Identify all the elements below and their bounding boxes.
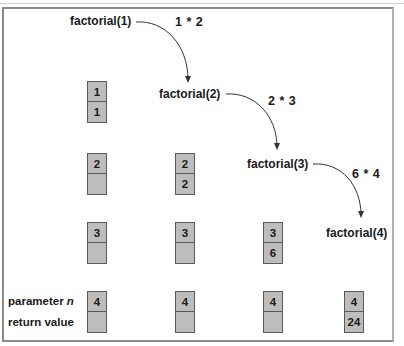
call-label-factorial-4: factorial(4) (326, 226, 387, 240)
stack-frame: 2 (87, 153, 107, 195)
stack-frame: 2 2 (175, 153, 195, 195)
stack-frame: 4 (263, 291, 283, 333)
return-cell (88, 174, 106, 194)
return-cell: 6 (264, 243, 282, 263)
legend-return-value: return value (8, 315, 74, 329)
stack-frame: 3 6 (263, 222, 283, 264)
call-label-factorial-1: factorial(1) (70, 14, 131, 28)
stack-frame: 3 (87, 222, 107, 264)
legend-parameter-prefix: parameter (8, 295, 67, 307)
parameter-cell: 3 (176, 223, 194, 243)
parameter-cell: 2 (176, 154, 194, 174)
stack-frame: 4 (175, 291, 195, 333)
return-cell (88, 243, 106, 263)
parameter-cell: 3 (264, 223, 282, 243)
parameter-cell: 4 (176, 292, 194, 312)
stack-frame: 4 (87, 291, 107, 333)
call-label-factorial-2: factorial(2) (159, 87, 220, 101)
parameter-cell: 4 (88, 292, 106, 312)
mult-label-1: 1 * 2 (175, 15, 203, 29)
legend-parameter-n: parameter n (8, 294, 74, 308)
legend-parameter-var: n (67, 295, 74, 307)
parameter-cell: 4 (264, 292, 282, 312)
top-rule (0, 0, 404, 4)
diagram-frame (2, 7, 394, 342)
return-cell (264, 312, 282, 332)
return-cell (176, 243, 194, 263)
parameter-cell: 3 (88, 223, 106, 243)
parameter-cell: 2 (88, 154, 106, 174)
return-cell: 1 (88, 102, 106, 122)
mult-label-2: 2 * 3 (268, 94, 296, 108)
call-label-factorial-3: factorial(3) (247, 157, 308, 171)
return-cell: 24 (345, 312, 363, 332)
return-cell: 2 (176, 174, 194, 194)
stack-frame: 4 24 (344, 291, 364, 333)
return-cell (176, 312, 194, 332)
parameter-cell: 4 (345, 292, 363, 312)
stack-frame: 1 1 (87, 81, 107, 123)
stack-frame: 3 (175, 222, 195, 264)
return-cell (88, 312, 106, 332)
parameter-cell: 1 (88, 82, 106, 102)
mult-label-3: 6 * 4 (352, 167, 380, 181)
